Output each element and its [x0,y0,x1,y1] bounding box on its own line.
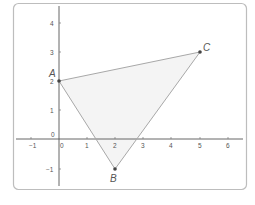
x-tick-label-0: 0 [60,142,64,149]
coordinate-plane: −1 0 1 2 3 4 5 6 4 3 2 1 0 −1 A B C [0,0,255,205]
point-a [57,79,61,83]
point-a-label: A [48,68,56,79]
x-tick-label-4: 4 [169,142,173,149]
point-c [198,50,202,54]
x-tick-label-5: 5 [198,142,202,149]
y-tick-label-1: 1 [50,107,54,114]
point-b [113,167,117,171]
x-tick-label-3: 3 [141,142,145,149]
x-tick-label-2: 2 [113,142,117,149]
x-tick-label-m1: −1 [29,142,37,149]
point-c-label: C [203,42,211,53]
y-tick-label-0: 0 [51,131,55,138]
y-tick-label-4: 4 [50,20,54,27]
y-tick-label-3: 3 [50,49,54,56]
x-tick-label-6: 6 [226,142,230,149]
point-b-label: B [110,173,117,184]
y-tick-label-m1: −1 [46,166,54,173]
x-tick-label-1: 1 [85,142,89,149]
